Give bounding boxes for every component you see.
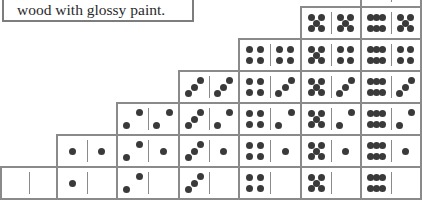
pip-dot [308, 121, 315, 128]
pip-dot [246, 174, 253, 181]
pip-dot [379, 153, 386, 160]
pip-dot [257, 121, 264, 128]
domino-divider [270, 140, 271, 162]
pip-dot [379, 25, 386, 32]
pip-dot [408, 109, 415, 116]
domino-half-3 [331, 72, 360, 102]
domino-half-2 [148, 104, 178, 134]
domino-half-6 [362, 72, 391, 102]
domino-half-4 [391, 40, 420, 70]
domino-divider [270, 172, 271, 194]
domino-half-3 [180, 168, 209, 198]
pip-dot [407, 14, 414, 21]
domino-tile-5-0 [300, 166, 362, 200]
pip-dot [275, 90, 282, 97]
domino-half-2 [118, 104, 148, 134]
pip-dot [220, 148, 227, 155]
pip-dot [337, 46, 344, 53]
pip-dot [226, 77, 233, 84]
domino-divider [209, 172, 210, 194]
pip-dot [318, 25, 325, 32]
pip-dot [318, 14, 325, 21]
pip-dot [276, 57, 283, 64]
pip-dot [318, 153, 325, 160]
pip-dot [197, 77, 204, 84]
pip-dot [379, 174, 386, 181]
domino-half-1 [270, 136, 300, 166]
pip-dot [379, 185, 386, 192]
pip-dot [407, 46, 414, 53]
pip-dot [257, 142, 264, 149]
domino-tile-5-4 [300, 38, 362, 72]
domino-half-3 [391, 72, 420, 102]
domino-divider [270, 76, 271, 98]
pip-dot [379, 142, 386, 149]
domino-tile-6-0 [360, 166, 422, 200]
domino-half-1 [391, 136, 420, 166]
pip-dot [246, 89, 253, 96]
domino-tile-6-1 [360, 134, 422, 168]
domino-half-1 [331, 136, 360, 166]
pip-dot [336, 90, 343, 97]
domino-half-5 [302, 40, 331, 70]
pip-dot [318, 174, 325, 181]
domino-half-1 [209, 136, 238, 166]
pip-dot [379, 46, 386, 53]
domino-half-5 [302, 104, 331, 134]
pip-dot [69, 148, 76, 155]
pip-dot [318, 142, 325, 149]
pip-dot [282, 84, 289, 91]
domino-divider [331, 44, 332, 66]
domino-tile-6-6 [360, 0, 422, 8]
pip-dot [402, 148, 409, 155]
domino-half-2 [118, 168, 148, 198]
pip-dot [397, 25, 404, 32]
domino-half-0 [270, 168, 300, 198]
pip-dot [288, 109, 295, 116]
domino-half-3 [180, 104, 209, 134]
domino-divider [331, 76, 332, 98]
pip-dot [396, 122, 403, 129]
domino-half-5 [331, 8, 360, 38]
pip-dot [166, 109, 173, 116]
pip-dot [257, 78, 264, 85]
pip-dot [191, 84, 198, 91]
domino-half-0 [87, 168, 116, 198]
domino-tile-3-0 [178, 166, 240, 200]
domino-half-0 [29, 168, 56, 198]
domino-half-4 [240, 104, 270, 134]
pip-dot [282, 148, 289, 155]
pip-dot [246, 121, 253, 128]
domino-tile-3-2 [178, 102, 240, 136]
domino-half-4 [270, 40, 300, 70]
domino-tile-2-0 [116, 166, 180, 200]
pip-dot [246, 110, 253, 117]
domino-half-4 [240, 168, 270, 198]
pip-dot [308, 57, 315, 64]
pip-dot [347, 46, 354, 53]
pip-dot [379, 78, 386, 85]
pip-dot [288, 77, 295, 84]
pip-dot [379, 121, 386, 128]
pip-dot [257, 46, 264, 53]
pip-dot [318, 110, 325, 117]
domino-tile-5-1 [300, 134, 362, 168]
pip-dot [287, 57, 294, 64]
pip-dot [318, 78, 325, 85]
pip-dot [69, 180, 76, 187]
domino-half-4 [240, 136, 270, 166]
pip-dot [214, 122, 221, 129]
domino-half-3 [270, 72, 300, 102]
domino-tile-6-2 [360, 102, 422, 136]
pip-dot [348, 109, 355, 116]
domino-divider [209, 140, 210, 162]
pip-dot [308, 89, 315, 96]
pip-dot [407, 25, 414, 32]
domino-half-1 [58, 136, 87, 166]
pip-dot [246, 78, 253, 85]
domino-half-0 [148, 168, 178, 198]
domino-half-2 [209, 104, 238, 134]
pip-dot [246, 185, 253, 192]
domino-half-2 [270, 104, 300, 134]
pip-dot [318, 46, 325, 53]
